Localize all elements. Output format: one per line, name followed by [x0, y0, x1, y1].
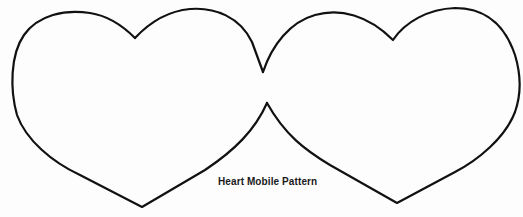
- heart-mobile-pattern-figure: Heart Mobile Pattern: [0, 0, 523, 217]
- left-heart-top-right-lobe: [135, 9, 263, 72]
- right-heart-outline: [263, 8, 520, 203]
- figure-caption: Heart Mobile Pattern: [218, 176, 317, 187]
